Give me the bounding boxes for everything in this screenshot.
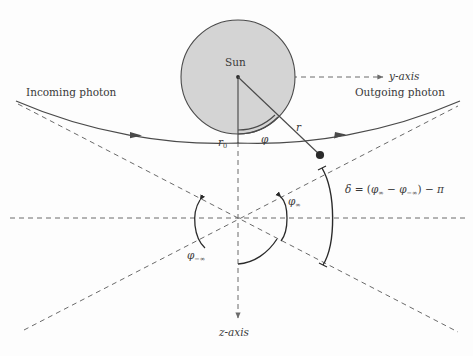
delta-outer-minus: − — [425, 183, 434, 195]
delta-phi-infinity-subscript: ∞ — [378, 189, 383, 197]
delta-equals-sign: = — [355, 183, 364, 195]
y-axis-label: y-axis — [389, 71, 419, 82]
r-zero-subscript: 0 — [223, 142, 227, 150]
diagram-canvas — [0, 0, 473, 356]
delta-phi-minus-infinity: φ — [399, 183, 406, 195]
delta-symbol: δ — [345, 183, 351, 195]
outgoing-photon-label: Outgoing photon — [355, 87, 445, 98]
phi-infinity-arc — [281, 197, 287, 241]
phi-minus-infinity-subscript: −∞ — [194, 255, 205, 263]
phi-minus-infinity-label: φ−∞ — [187, 250, 205, 262]
delta-close-paren: ) — [417, 183, 421, 195]
phi-infinity-label: φ∞ — [288, 196, 301, 208]
delta-inner-minus: − — [387, 183, 396, 195]
y-axis-label-text: y-axis — [389, 70, 419, 82]
delta-pi-symbol: π — [437, 183, 444, 195]
phi-infinity-subscript: ∞ — [295, 201, 300, 209]
sun-label: Sun — [225, 57, 246, 68]
phi-minus-infinity-arc-lower — [238, 239, 277, 264]
z-axis-label: z-axis — [219, 327, 249, 338]
r-radial-label: r — [296, 122, 301, 133]
r-zero-label: r0 — [218, 137, 227, 149]
photon-position-dot — [316, 151, 324, 159]
z-axis-label-text: z-axis — [219, 326, 249, 338]
delta-phi-minus-infinity-subscript: −∞ — [407, 189, 418, 197]
delta-arc-end-ticks — [318, 166, 327, 267]
incoming-photon-label: Incoming photon — [26, 87, 116, 98]
phi-label: φ — [261, 134, 268, 145]
delta-equation-label: δ = (φ∞ − φ−∞) − π — [345, 184, 444, 196]
deflection-diagram-figure: Sun Incoming photon Outgoing photon y-ax… — [0, 0, 473, 356]
delta-deflection-arc — [322, 168, 333, 265]
